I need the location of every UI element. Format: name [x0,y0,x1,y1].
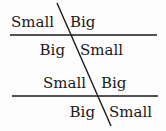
bottom-below-right-label: Small [109,103,152,121]
top-above-right-label: Big [70,13,96,31]
bottom-above-left-label: Small [43,74,86,92]
bottom-below-left-label: Big [70,103,96,121]
bottom-above-right-label: Big [101,74,127,92]
diagram-svg: Small Big Big Small Small Big Big Small [0,0,166,131]
top-below-right-label: Small [80,41,123,59]
parallel-lines-angle-diagram: Small Big Big Small Small Big Big Small [0,0,166,131]
top-above-left-label: Small [11,13,54,31]
top-below-left-label: Big [40,41,66,59]
